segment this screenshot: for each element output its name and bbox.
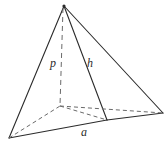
edge-altitude-apex-to-foot [60, 8, 63, 106]
pyramid-figure: p h a [0, 0, 168, 148]
edge-back-hidden-to-base-right [60, 106, 163, 113]
apex-vertex-dot [62, 4, 65, 7]
altitude-line [60, 8, 63, 106]
slant-height-label: h [87, 57, 93, 69]
altitude-label: p [50, 57, 56, 69]
edge-apex-to-base-front [64, 6, 107, 120]
edge-back-hidden-to-base-front [60, 106, 107, 120]
solid-edges [9, 6, 163, 138]
base-edge-label: a [81, 126, 87, 138]
edge-apex-to-base-left [9, 6, 64, 138]
edge-base-front-to-base-right [107, 113, 163, 120]
edge-apex-to-base-right [64, 6, 163, 113]
